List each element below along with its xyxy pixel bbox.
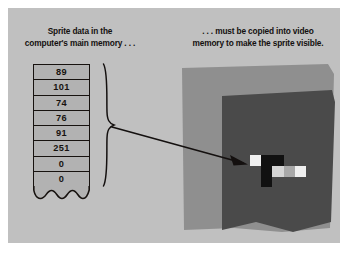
memory-cell: 89: [34, 65, 89, 80]
memory-cell: 101: [34, 80, 89, 95]
sprite-pixel: [295, 166, 306, 177]
sprite-data-caption-line1: Sprite data in the: [10, 25, 150, 37]
video-memory-caption-line1: . . . must be copied into video: [178, 25, 338, 37]
sprite-pixel: [272, 166, 283, 177]
memory-cell: 76: [34, 111, 89, 126]
sprite-pixel: [272, 155, 283, 166]
memory-table: 89 101 74 76 91 251 0 0: [33, 64, 90, 187]
memory-cell: 0: [34, 157, 89, 172]
sprite-pixel: [261, 177, 272, 188]
video-memory-caption: . . . must be copied into video memory t…: [178, 25, 338, 49]
torn-edge-icon: [33, 186, 90, 200]
sprite-data-caption-line2: computer's main memory . . .: [10, 37, 150, 49]
sprite-pixel: [261, 155, 272, 166]
sprite-pixel: [261, 166, 272, 177]
memory-cell: 91: [34, 126, 89, 141]
sprite-pixels: [250, 155, 306, 188]
sprite-pixel: [284, 166, 295, 177]
memory-cell: 74: [34, 96, 89, 111]
video-memory-caption-line2: memory to make the sprite visible.: [178, 37, 338, 49]
sprite-data-caption: Sprite data in the computer's main memor…: [10, 25, 150, 49]
memory-cell: 251: [34, 141, 89, 156]
figure-canvas: Sprite data in the computer's main memor…: [0, 0, 349, 261]
copy-arrow-icon: [110, 118, 255, 173]
